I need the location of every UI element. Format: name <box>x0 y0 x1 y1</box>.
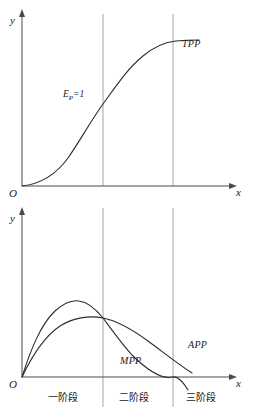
elasticity-rest: =1 <box>73 89 84 99</box>
bottom-y-axis-arrow-icon <box>19 207 25 215</box>
bottom-y-axis-label: y <box>9 212 15 224</box>
tpp-curve-label: TPP <box>182 38 201 49</box>
mpp-curve-label: MPP <box>119 355 141 366</box>
app-curve <box>22 317 192 377</box>
bottom-panel: y x O APP MPP 一阶段 二阶段 三阶段 <box>9 207 241 407</box>
app-curve-label: APP <box>187 339 207 350</box>
elasticity-annotation: EP=1 <box>62 89 84 102</box>
bottom-origin-label: O <box>9 378 17 390</box>
top-x-axis-label: x <box>235 186 241 198</box>
production-function-figure: y x O TPP EP=1 y x O APP <box>0 0 254 413</box>
stage-label-1: 一阶段 <box>48 391 78 403</box>
top-y-axis-label: y <box>9 14 15 26</box>
stage-label-3: 三阶段 <box>186 391 216 403</box>
top-panel: y x O TPP EP=1 <box>9 9 241 199</box>
stage-label-2: 二阶段 <box>119 391 149 403</box>
figure-canvas: y x O TPP EP=1 y x O APP <box>0 0 254 413</box>
bottom-x-axis-label: x <box>235 377 241 389</box>
top-y-axis-arrow-icon <box>19 9 25 17</box>
tpp-curve <box>22 40 199 186</box>
top-origin-label: O <box>9 187 17 199</box>
